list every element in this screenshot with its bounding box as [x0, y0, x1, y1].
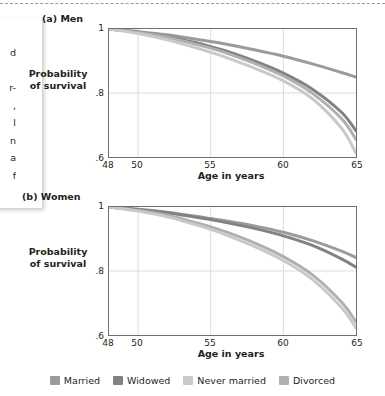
chart-legend: Married Widowed Never married Divorced: [0, 371, 385, 389]
panel-title-men: (a) Men: [42, 13, 83, 24]
x-tick-60: 60: [270, 338, 296, 348]
legend-item-married[interactable]: Married: [50, 375, 100, 386]
panel-men: (a) Men Probability of survival 1 .8 .6 …: [0, 10, 385, 190]
x-tick-50: 50: [124, 160, 150, 170]
curves-women: [109, 207, 356, 335]
legend-item-never-married[interactable]: Never married: [183, 375, 266, 386]
legend-item-widowed[interactable]: Widowed: [113, 375, 170, 386]
y-tick-1: 1: [82, 23, 104, 33]
legend-swatch-icon: [50, 376, 60, 385]
x-axis-label-men: Age in years: [105, 170, 357, 181]
panel-women: (b) Women Probability of survival 1 .8 .…: [0, 188, 385, 368]
plot-area-women: [108, 206, 357, 336]
y-tick-08: .8: [82, 88, 104, 98]
y-tick-1: 1: [82, 201, 104, 211]
x-tick-60: 60: [270, 160, 296, 170]
legend-label: Never married: [197, 375, 266, 386]
series-line: [109, 29, 356, 153]
legend-label: Widowed: [127, 375, 170, 386]
y-axis-label-women: Probability of survival: [26, 246, 90, 269]
legend-swatch-icon: [279, 376, 289, 385]
y-axis-label-line1: Probability: [26, 68, 90, 80]
y-axis-label-line2: of survival: [26, 80, 90, 92]
y-axis-label-line1: Probability: [26, 246, 90, 258]
series-line: [109, 207, 356, 258]
y-axis-label-line2: of survival: [26, 258, 90, 270]
x-tick-65: 65: [344, 160, 370, 170]
legend-label: Divorced: [293, 375, 335, 386]
y-axis-label-men: Probability of survival: [26, 68, 90, 91]
x-tick-50: 50: [124, 338, 150, 348]
legend-label: Married: [64, 375, 100, 386]
legend-item-divorced[interactable]: Divorced: [279, 375, 335, 386]
x-tick-48: 48: [95, 160, 121, 170]
legend-swatch-icon: [113, 376, 123, 385]
x-tick-55: 55: [197, 338, 223, 348]
figure-root: d r- , l n a f (a) Men Probability of su…: [0, 0, 385, 396]
legend-swatch-icon: [183, 376, 193, 385]
panel-title-women: (b) Women: [22, 191, 81, 202]
x-axis-label-women: Age in years: [105, 348, 357, 359]
top-dashed-separator: [0, 3, 385, 4]
x-tick-65: 65: [344, 338, 370, 348]
y-tick-08: .8: [82, 266, 104, 276]
plot-area-men: [108, 28, 357, 158]
curves-men: [109, 29, 356, 157]
x-tick-48: 48: [95, 338, 121, 348]
x-tick-55: 55: [197, 160, 223, 170]
